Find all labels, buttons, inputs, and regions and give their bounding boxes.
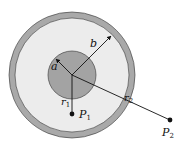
point-p2	[168, 118, 173, 123]
label-a: a	[51, 60, 58, 73]
label-b: b	[90, 37, 97, 50]
point-p1	[70, 112, 75, 117]
label-p2: P2	[161, 126, 174, 140]
coaxial-diagram: a b r1 r2 P1 P2	[0, 0, 180, 141]
